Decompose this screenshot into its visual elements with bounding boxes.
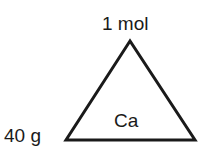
top-label-moles: 1 mol bbox=[102, 14, 148, 33]
left-label-mass: 40 g bbox=[4, 126, 41, 145]
center-label-element: Ca bbox=[114, 111, 138, 130]
